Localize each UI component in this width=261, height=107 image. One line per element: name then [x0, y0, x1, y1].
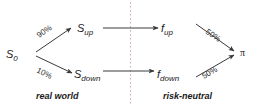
caption-risk-neutral: risk-neutral — [163, 91, 213, 101]
node-label-up: Sup — [77, 22, 94, 37]
node-payoff-up-sub: up — [164, 28, 173, 37]
edge-label-50-percent-down: 50% — [201, 65, 219, 81]
caption-real-world: real world — [36, 91, 79, 101]
node-root-sub: 0 — [13, 54, 18, 63]
edge-label-10-percent: 10% — [35, 66, 53, 81]
binomial-tree-diagram: S0 Sup Sdown fup fdown π 90% 10% 50% 50%… — [0, 0, 261, 107]
edge-label-90-percent: 90% — [35, 23, 53, 39]
node-label-payoff-up: fup — [161, 22, 174, 37]
node-label-down: Sdown — [74, 68, 101, 83]
node-label-root: S0 — [6, 48, 18, 63]
node-up-sub: up — [84, 28, 93, 37]
node-label-price: π — [240, 47, 245, 58]
diagram-canvas: S0 Sup Sdown fup fdown π 90% 10% 50% 50%… — [0, 0, 261, 107]
node-label-payoff-down: fdown — [157, 68, 180, 83]
node-down-sub: down — [81, 74, 101, 83]
node-payoff-down-sub: down — [160, 74, 180, 83]
